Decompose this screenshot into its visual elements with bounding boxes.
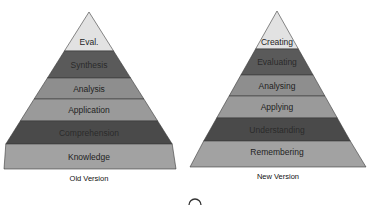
layer-label: Comprehension [59,128,119,138]
layer-label: Evaluating [257,57,297,67]
layer-label: Analysis [73,84,105,94]
layer-label: Applying [261,102,294,112]
layer-label: Synthesis [71,60,108,70]
caption-new-version: New Version [257,172,299,181]
pyramid-diagram: Eval. Synthesis Analysis Application Com… [0,0,369,205]
layer-label: Knowledge [68,152,110,162]
layer-label: Remembering [250,147,304,157]
layer-label: Understanding [249,125,305,135]
circle-icon [189,199,201,205]
layer-label: Analysing [259,81,296,91]
layer-label: Application [68,105,110,115]
pyramid-old-version: Eval. Synthesis Analysis Application Com… [4,12,176,183]
layer-label: Creating [261,37,293,47]
pyramid-new-version: Creating Evaluating Analysing Applying U… [190,11,366,181]
caption-old-version: Old Version [70,174,109,183]
layer-label: Eval. [80,37,99,47]
